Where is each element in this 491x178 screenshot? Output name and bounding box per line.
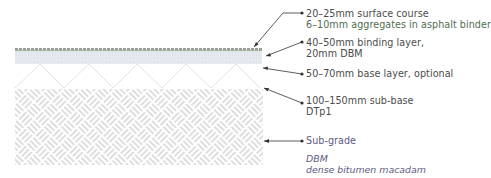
label-surface-course: 20–25mm surface course 6–10mm aggregates… bbox=[306, 9, 491, 30]
legend-meaning: dense bitumen macadam bbox=[306, 164, 426, 175]
label-sub-base: 100–150mm sub-base DTp1 bbox=[306, 96, 414, 117]
sub-base-layer bbox=[15, 89, 263, 165]
legend-abbr: DBM bbox=[306, 153, 426, 164]
leader-dots bbox=[300, 11, 303, 142]
sub-grade-text: Sub-grade bbox=[306, 136, 356, 147]
abbreviation-legend: DBM dense bitumen macadam bbox=[306, 153, 426, 175]
label-binding-layer: 40–50mm binding layer, 20mm DBM bbox=[306, 38, 424, 59]
base-layer-zigzag bbox=[15, 64, 260, 88]
label-sub-grade: Sub-grade bbox=[306, 136, 356, 147]
sub-base-thickness: 100–150mm sub-base bbox=[306, 96, 414, 107]
base-layer-thickness: 50–70mm base layer, optional bbox=[306, 69, 453, 80]
surface-course-aggregates: 6–10mm aggregates in asphalt binder bbox=[306, 20, 491, 31]
binding-layer-thickness: 40–50mm binding layer, bbox=[306, 38, 424, 49]
surface-course-thickness: 20–25mm surface course bbox=[306, 9, 491, 20]
label-base-layer: 50–70mm base layer, optional bbox=[306, 69, 453, 80]
binding-layer bbox=[15, 52, 262, 65]
sub-base-material: DTp1 bbox=[306, 107, 414, 118]
binding-layer-material: 20mm DBM bbox=[306, 49, 424, 60]
surface-course-layer bbox=[15, 49, 262, 51]
